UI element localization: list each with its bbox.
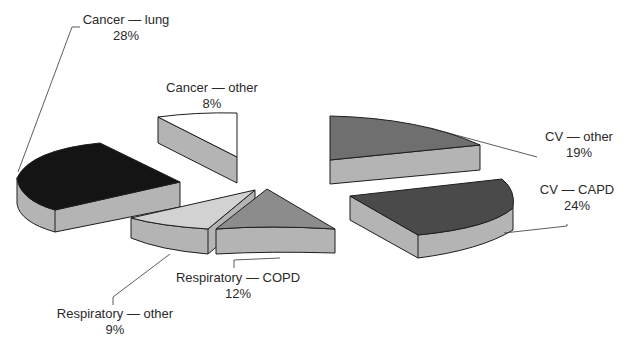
label-name: Respiratory — COPD xyxy=(174,270,302,286)
label-name: Respiratory — other xyxy=(52,306,178,322)
slice-cv-capd xyxy=(350,179,514,258)
slice-cancer-other xyxy=(158,113,237,183)
label-name: CV — other xyxy=(540,129,618,145)
label-cancer-other: Cancer — other 8% xyxy=(160,80,264,112)
label-pct: 28% xyxy=(78,28,174,44)
label-cv-other: CV — other 19% xyxy=(540,129,618,161)
label-cv-capd: CV — CAPD 24% xyxy=(537,182,617,214)
label-name: CV — CAPD xyxy=(537,182,617,198)
label-pct: 12% xyxy=(174,286,302,302)
label-respiratory-copd: Respiratory — COPD 12% xyxy=(174,270,302,302)
label-pct: 8% xyxy=(160,96,264,112)
slice-cv-other xyxy=(330,116,480,184)
label-cancer-lung: Cancer — lung 28% xyxy=(78,12,174,44)
label-respiratory-other: Respiratory — other 9% xyxy=(52,306,178,338)
label-pct: 9% xyxy=(52,322,178,338)
label-name: Cancer — lung xyxy=(78,12,174,28)
label-pct: 19% xyxy=(540,145,618,161)
label-pct: 24% xyxy=(537,198,617,214)
pie-chart xyxy=(0,0,623,343)
label-name: Cancer — other xyxy=(160,80,264,96)
